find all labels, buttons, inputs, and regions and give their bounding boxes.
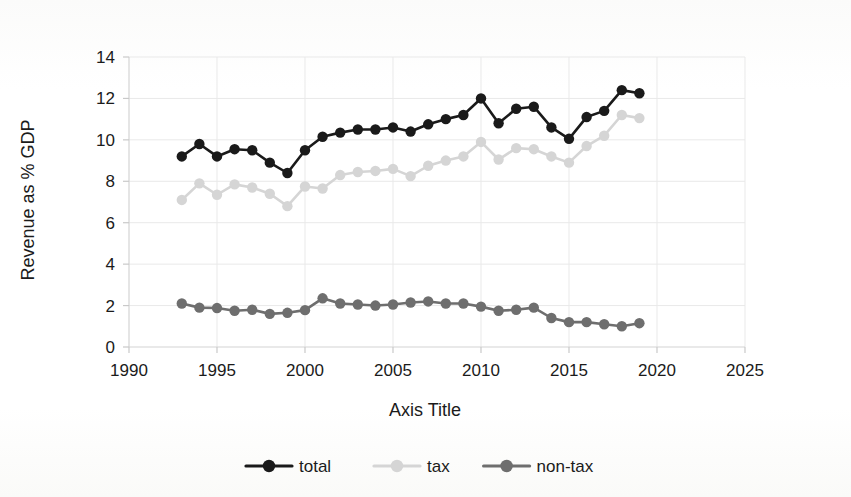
data-point xyxy=(194,139,204,149)
legend-marker-dot xyxy=(500,460,512,472)
data-point xyxy=(599,131,609,141)
data-point xyxy=(177,298,187,308)
data-point xyxy=(229,144,239,154)
data-point xyxy=(335,298,345,308)
data-point xyxy=(265,309,275,319)
data-point xyxy=(546,313,556,323)
chart-plot-svg: 02468101214 1990199520002005201020152020… xyxy=(0,0,851,497)
data-point xyxy=(370,124,380,134)
data-point xyxy=(599,106,609,116)
legend-item-total[interactable]: total xyxy=(246,457,331,476)
y-axis-tick-label: 8 xyxy=(106,172,115,191)
data-point xyxy=(617,110,627,120)
series-tax xyxy=(177,110,645,212)
data-point xyxy=(511,104,521,114)
data-point xyxy=(441,298,451,308)
data-point xyxy=(194,302,204,312)
data-point xyxy=(247,305,257,315)
legend-item-tax[interactable]: tax xyxy=(374,457,450,476)
y-axis-tick-label: 4 xyxy=(106,255,115,274)
series-non-tax xyxy=(177,293,645,331)
data-point xyxy=(564,317,574,327)
data-point xyxy=(564,157,574,167)
data-point xyxy=(177,151,187,161)
data-point xyxy=(617,321,627,331)
data-point xyxy=(581,317,591,327)
data-point xyxy=(265,189,275,199)
data-point xyxy=(546,151,556,161)
data-point xyxy=(634,88,644,98)
data-point xyxy=(511,305,521,315)
data-point xyxy=(476,301,486,311)
data-point xyxy=(388,299,398,309)
data-point xyxy=(405,126,415,136)
legend-label: total xyxy=(299,457,331,476)
data-point xyxy=(458,110,468,120)
data-point xyxy=(300,305,310,315)
data-point xyxy=(300,181,310,191)
x-axis-tick-label: 2000 xyxy=(286,361,324,380)
data-point xyxy=(511,143,521,153)
data-point xyxy=(546,122,556,132)
data-point xyxy=(476,137,486,147)
data-point xyxy=(335,170,345,180)
data-point xyxy=(634,318,644,328)
data-point xyxy=(617,85,627,95)
data-point xyxy=(247,145,257,155)
legend-item-non-tax[interactable]: non-tax xyxy=(484,457,594,476)
data-point xyxy=(423,119,433,129)
y-axis-tick-label: 14 xyxy=(96,48,115,67)
data-point xyxy=(212,190,222,200)
data-point xyxy=(529,102,539,112)
data-point xyxy=(353,299,363,309)
data-point xyxy=(581,112,591,122)
data-point xyxy=(335,127,345,137)
data-point xyxy=(423,296,433,306)
data-point xyxy=(229,306,239,316)
data-point xyxy=(282,308,292,318)
chart-legend: totaltaxnon-tax xyxy=(246,457,594,476)
chart-screenshot: 02468101214 1990199520002005201020152020… xyxy=(0,0,851,497)
data-point xyxy=(441,114,451,124)
x-axis-tick-label: 2010 xyxy=(462,361,500,380)
x-axis-tick-label: 2015 xyxy=(550,361,588,380)
legend-label: tax xyxy=(427,457,450,476)
data-point xyxy=(493,306,503,316)
data-point xyxy=(370,166,380,176)
data-point xyxy=(247,182,257,192)
data-point xyxy=(493,154,503,164)
data-point xyxy=(282,201,292,211)
legend-label: non-tax xyxy=(537,457,594,476)
data-point xyxy=(529,302,539,312)
data-point xyxy=(423,161,433,171)
line-chart: 02468101214 1990199520002005201020152020… xyxy=(0,0,851,497)
data-point xyxy=(634,113,644,123)
x-axis-tick-label: 2020 xyxy=(638,361,676,380)
x-axis-tick-label: 1990 xyxy=(110,361,148,380)
legend-marker-dot xyxy=(263,460,275,472)
data-point xyxy=(493,118,503,128)
data-point xyxy=(476,93,486,103)
data-series-layer xyxy=(177,85,645,332)
data-point xyxy=(353,124,363,134)
x-axis-tick-label: 1995 xyxy=(198,361,236,380)
data-point xyxy=(212,151,222,161)
y-axis-tick-labels: 02468101214 xyxy=(96,48,115,357)
x-axis-title: Axis Title xyxy=(389,400,461,420)
y-axis-title: Revenue as % GDP xyxy=(18,119,38,280)
data-point xyxy=(458,298,468,308)
data-point xyxy=(581,141,591,151)
data-point xyxy=(564,134,574,144)
data-point xyxy=(300,145,310,155)
data-point xyxy=(388,122,398,132)
data-point xyxy=(317,132,327,142)
data-point xyxy=(317,293,327,303)
data-point xyxy=(212,303,222,313)
series-total xyxy=(177,85,645,178)
data-point xyxy=(441,155,451,165)
data-point xyxy=(458,151,468,161)
y-axis-tick-label: 6 xyxy=(106,214,115,233)
y-axis-tick-label: 0 xyxy=(106,338,115,357)
y-axis-tick-label: 12 xyxy=(96,89,115,108)
data-point xyxy=(405,297,415,307)
